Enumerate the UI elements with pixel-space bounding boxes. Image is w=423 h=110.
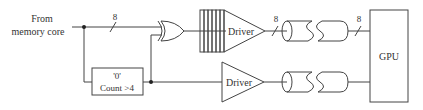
bus-width-input: 8 — [113, 12, 118, 22]
xor-gate-icon — [161, 21, 184, 41]
cable-top-icon — [282, 21, 348, 41]
input-label-line2: memory core — [11, 26, 65, 37]
input-label-line1: From — [31, 13, 53, 24]
bus-width-gpu-in: 8 — [357, 14, 362, 24]
counter-line2: Count >4 — [100, 83, 134, 93]
gpu-label: GPU — [379, 51, 400, 62]
xor-gate-back-icon — [158, 21, 162, 41]
junction-dot-icon — [82, 25, 86, 29]
xor-second-input-line — [151, 35, 162, 82]
bus-bars-icon — [200, 10, 226, 52]
bus-width-driver-out: 8 — [274, 14, 279, 24]
cable-bottom-icon — [282, 72, 348, 92]
driver-bottom-label: Driver — [226, 77, 253, 88]
branch-to-counter-line — [84, 27, 92, 82]
driver-top-label: Driver — [228, 26, 255, 37]
dbi-encoding-diagram: From memory core 8 '0' Count >4 Driver D… — [0, 0, 423, 110]
counter-line1: '0' — [113, 71, 121, 81]
junction-dot-icon — [149, 80, 153, 84]
